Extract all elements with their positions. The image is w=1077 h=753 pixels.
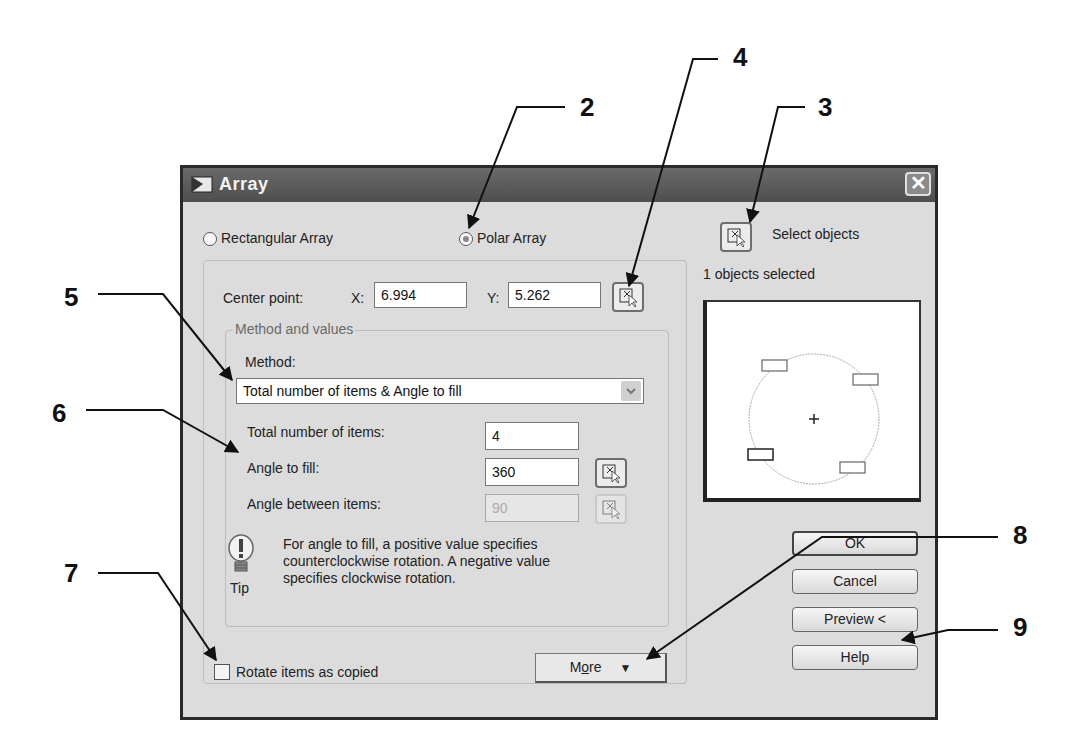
more-label-mnemonic: o xyxy=(581,659,589,675)
rectangular-array-label[interactable]: Rectangular Array xyxy=(221,230,333,246)
pick-center-point-button[interactable] xyxy=(612,282,644,312)
callout-9: 9 xyxy=(1013,612,1027,643)
dropdown-arrow-icon[interactable] xyxy=(621,381,641,401)
preview-button[interactable]: Preview < xyxy=(792,607,918,632)
help-button[interactable]: Help xyxy=(792,645,918,670)
double-chevron-down-icon: ▼ xyxy=(619,661,631,675)
center-point-label: Center point: xyxy=(223,290,303,306)
callout-8: 8 xyxy=(1013,520,1027,551)
tip-text-line-2: counterclockwise rotation. A negative va… xyxy=(283,553,550,570)
callout-2: 2 xyxy=(580,92,594,123)
close-button[interactable]: ✕ xyxy=(905,172,931,196)
array-app-icon xyxy=(191,176,213,193)
rectangular-array-radio[interactable] xyxy=(203,232,217,246)
cancel-button[interactable]: Cancel xyxy=(792,569,918,594)
total-items-input[interactable] xyxy=(485,422,579,450)
center-y-label: Y: xyxy=(487,290,499,306)
tip-text-line-3: specifies clockwise rotation. xyxy=(283,570,550,587)
array-preview-pane xyxy=(703,300,921,502)
polar-array-radio[interactable] xyxy=(459,232,473,246)
array-dialog: Array ✕ Rectangular Array Polar Array Se… xyxy=(180,165,938,720)
tip-text: For angle to fill, a positive value spec… xyxy=(283,536,550,587)
angle-fill-label: Angle to fill: xyxy=(247,460,319,476)
total-items-label: Total number of items: xyxy=(247,424,385,440)
polar-array-label[interactable]: Polar Array xyxy=(477,230,546,246)
callout-6: 6 xyxy=(52,398,66,429)
tip-text-line-1: For angle to fill, a positive value spec… xyxy=(283,536,550,553)
pick-point-icon xyxy=(614,284,642,310)
more-label-suffix: re xyxy=(589,659,601,675)
select-objects-label: Select objects xyxy=(772,226,859,242)
more-label-prefix: M xyxy=(570,659,582,675)
pick-angle-fill-button[interactable] xyxy=(595,458,627,488)
center-y-input[interactable] xyxy=(508,282,601,308)
title-bar[interactable]: Array ✕ xyxy=(183,168,935,202)
ok-button[interactable]: OK xyxy=(792,531,918,556)
callout-4: 4 xyxy=(733,42,747,73)
method-values-legend: Method and values xyxy=(233,321,355,337)
method-label: Method: xyxy=(245,354,296,370)
dialog-title: Array xyxy=(219,174,269,195)
select-objects-button[interactable] xyxy=(720,222,752,252)
pick-angle-icon xyxy=(597,460,625,486)
more-button[interactable]: More ▼ xyxy=(535,653,667,683)
lightbulb-icon xyxy=(227,534,255,578)
pick-angle-between-button xyxy=(595,494,627,524)
objects-selected-status: 1 objects selected xyxy=(703,266,815,282)
tip-caption: Tip xyxy=(230,580,249,596)
method-select-value: Total number of items & Angle to fill xyxy=(243,383,462,399)
method-select[interactable]: Total number of items & Angle to fill xyxy=(236,378,644,404)
polar-array-preview-graphic xyxy=(707,302,919,498)
callout-5: 5 xyxy=(64,282,78,313)
center-x-input[interactable] xyxy=(374,282,467,308)
close-icon: ✕ xyxy=(910,172,927,194)
callout-7: 7 xyxy=(64,558,78,589)
angle-between-input xyxy=(485,494,579,522)
pick-objects-icon xyxy=(722,224,750,250)
angle-between-label: Angle between items: xyxy=(247,496,381,512)
callout-3: 3 xyxy=(818,92,832,123)
center-x-label: X: xyxy=(351,290,364,306)
rotate-items-checkbox[interactable] xyxy=(214,664,230,680)
angle-fill-input[interactable] xyxy=(485,458,579,486)
rotate-items-label[interactable]: Rotate items as copied xyxy=(236,664,378,680)
pick-angle-disabled-icon xyxy=(597,496,625,522)
